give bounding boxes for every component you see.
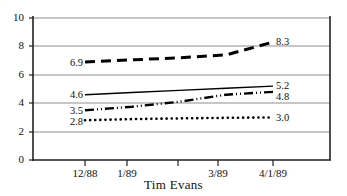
- series-label-start-4-6: 4.6: [70, 90, 83, 101]
- y-tick-label-6: 6: [2, 69, 24, 80]
- y-tick-label-0: 0: [2, 154, 24, 165]
- y-tick-label-8: 8: [2, 40, 24, 51]
- series-label-end-4-8: 4.8: [276, 92, 289, 103]
- series-dashed: [85, 42, 273, 62]
- plot-area: [0, 0, 347, 196]
- y-tick-label-10: 10: [2, 12, 24, 23]
- line-chart: 10 8 6 4 2 0 12/88 1/89 3/89 4/1/89 6.9 …: [0, 0, 347, 196]
- series-label-end-5-2: 5.2: [276, 81, 289, 92]
- x-tick-marks: [85, 160, 273, 166]
- series-label-start-2-8: 2.8: [70, 117, 83, 128]
- series-label-end-8-3: 8.3: [276, 37, 289, 48]
- data-series: [85, 42, 273, 120]
- chart-title: Tim Evans: [0, 177, 347, 193]
- series-label-end-3-0: 3.0: [276, 113, 289, 124]
- series-dash-dot-dot: [85, 92, 273, 110]
- y-tick-label-4: 4: [2, 97, 24, 108]
- series-dotted: [85, 117, 273, 120]
- y-tick-label-2: 2: [2, 126, 24, 137]
- series-label-start-3-5: 3.5: [70, 106, 83, 117]
- series-label-start-6-9: 6.9: [70, 58, 83, 69]
